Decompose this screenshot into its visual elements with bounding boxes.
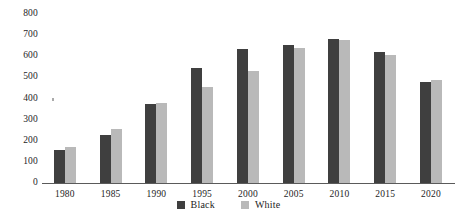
- bar-white-2000: [248, 71, 259, 183]
- bar-white-2010: [339, 40, 350, 183]
- legend-swatch-black-icon: [177, 201, 185, 209]
- bar-white-2020: [431, 80, 442, 183]
- y-axis-tick-label: 400: [23, 94, 38, 104]
- y-axis: 8007006005004003002001000: [0, 0, 42, 190]
- legend-label: Black: [191, 200, 215, 210]
- bar-black-1985: [100, 135, 111, 183]
- bar-black-2010: [328, 39, 339, 183]
- chart-legend: BlackWhite: [0, 200, 457, 210]
- y-axis-tick-label: 0: [33, 178, 38, 188]
- bar-group-1980: [42, 14, 87, 183]
- bar-group-2000: [225, 14, 270, 183]
- legend-item-white: White: [241, 200, 280, 210]
- y-axis-tick-label: 200: [23, 136, 38, 146]
- legend-item-black: Black: [177, 200, 215, 210]
- bar-black-2020: [420, 82, 431, 183]
- bar-group-2020: [408, 14, 453, 183]
- bar-black-1980: [54, 150, 65, 183]
- bar-group-2015: [363, 14, 408, 183]
- y-axis-tick-label: 700: [23, 30, 38, 40]
- bar-white-1990: [156, 103, 167, 183]
- bar-black-1990: [145, 104, 156, 183]
- bar-chart: 8007006005004003002001000 19801985199019…: [0, 0, 457, 223]
- bar-groups: [42, 14, 454, 183]
- bar-white-1980: [65, 147, 76, 183]
- bar-white-1995: [202, 87, 213, 183]
- bar-group-2005: [271, 14, 316, 183]
- plot-area: [42, 14, 454, 183]
- x-axis-line: [42, 183, 455, 184]
- bar-black-2005: [283, 45, 294, 183]
- bar-white-1985: [111, 129, 122, 184]
- bar-group-1985: [88, 14, 133, 183]
- y-axis-tick-label: 100: [23, 157, 38, 167]
- legend-label: White: [255, 200, 280, 210]
- bar-black-2000: [237, 49, 248, 183]
- y-axis-tick-label: 500: [23, 73, 38, 83]
- bar-white-2005: [294, 48, 305, 183]
- bar-white-2015: [385, 55, 396, 183]
- y-axis-tick-label: 800: [23, 9, 38, 19]
- y-axis-tick-label: 600: [23, 52, 38, 62]
- bar-black-2015: [374, 52, 385, 183]
- bar-group-1995: [180, 14, 225, 183]
- bar-group-1990: [134, 14, 179, 183]
- legend-swatch-white-icon: [241, 201, 249, 209]
- y-axis-tick-label: 300: [23, 115, 38, 125]
- bar-black-1995: [191, 68, 202, 183]
- bar-group-2010: [317, 14, 362, 183]
